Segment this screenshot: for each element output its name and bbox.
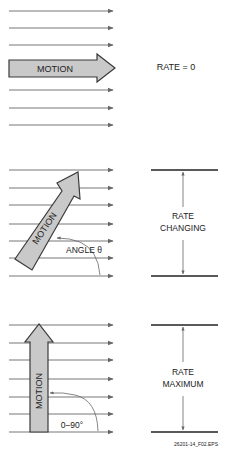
angle-range-label: 0–90° bbox=[61, 420, 83, 430]
rate-label-line2: MAXIMUM bbox=[162, 379, 203, 389]
flux-lines bbox=[9, 325, 113, 432]
panel-rate-maximum: MOTION 0–90° RATE MAXIMUM bbox=[9, 324, 218, 432]
panel-rate-zero: MOTION RATE = 0 bbox=[9, 11, 195, 125]
rate-label-line2: CHANGING bbox=[160, 223, 206, 233]
rate-label-line1: RATE bbox=[172, 211, 194, 221]
rate-label-line1: RATE bbox=[172, 367, 194, 377]
figure-id-label: 26201-14_F02.EPS bbox=[174, 441, 219, 447]
motion-label: MOTION bbox=[34, 373, 44, 409]
rate-zero-label: RATE = 0 bbox=[157, 62, 196, 72]
angle-arc-arrow-icon bbox=[57, 238, 100, 275]
panel-rate-changing: MOTION ANGLE θ RATE CHANGING bbox=[9, 170, 218, 276]
angle-theta-label: ANGLE θ bbox=[66, 245, 102, 255]
motion-label: MOTION bbox=[37, 64, 73, 74]
magnetic-flux-diagram: MOTION RATE = 0 MOTION ANGLE θ RATE CHAN… bbox=[0, 0, 232, 453]
